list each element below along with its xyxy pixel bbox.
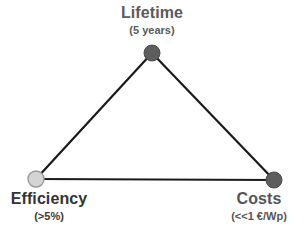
vertex-title-lifetime: Lifetime	[92, 4, 212, 22]
vertex-subtitle-efficiency: (>5%)	[0, 210, 104, 222]
vertex-subtitle-lifetime: (5 years)	[92, 24, 212, 36]
vertex-subtitle-costs: (<<1 €/Wp)	[204, 210, 306, 222]
edge-lifetime-costs	[152, 53, 274, 180]
vertex-title-efficiency: Efficiency	[0, 190, 104, 208]
edge-efficiency-lifetime	[36, 53, 152, 179]
node-costs[interactable]	[266, 172, 282, 188]
vertex-label-lifetime: Lifetime (5 years)	[92, 4, 212, 36]
edge-efficiency-costs	[36, 179, 274, 180]
node-efficiency[interactable]	[28, 171, 44, 187]
vertex-label-costs: Costs (<<1 €/Wp)	[204, 190, 306, 222]
vertex-label-efficiency: Efficiency (>5%)	[0, 190, 104, 222]
node-lifetime[interactable]	[144, 45, 160, 61]
vertex-title-costs: Costs	[204, 190, 306, 208]
triangle-diagram: Lifetime (5 years) Efficiency (>5%) Cost…	[0, 0, 306, 236]
